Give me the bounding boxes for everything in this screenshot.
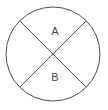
diagram-canvas: A B [0, 0, 108, 110]
region-label-b: B [51, 71, 58, 83]
region-label-a: A [51, 25, 59, 37]
circle-x-diagram: A B [0, 0, 108, 110]
